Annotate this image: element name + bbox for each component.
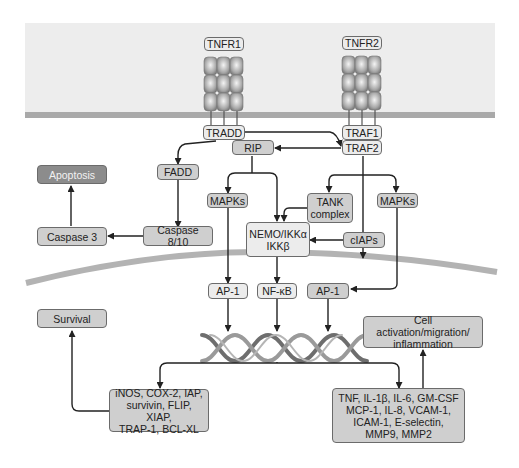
node-tradd: TRADD [203,125,245,140]
node-tank-complex: TANK complex [307,193,353,223]
node-inflammation-genes: TNF, IL-1β, IL-6, GM-CSF MCP-1, IL-8, VC… [332,388,465,443]
node-rip: RIP [232,140,274,155]
node-ap1-left: AP-1 [208,283,248,299]
node-survival-genes: iNOS, COX-2, IAP, survivin, FLIP, XIAP, … [109,389,209,432]
node-traf1: TRAF1 [342,125,382,140]
node-mapks-right: MAPKs [377,193,418,208]
node-tnfr2: TNFR2 [342,36,382,50]
plasma-membrane [25,112,495,118]
node-nemo-ikk: NEMO/IKKα IKKβ [246,222,310,257]
node-mapks-left: MAPKs [207,193,248,208]
node-survival: Survival [37,309,107,328]
dna-helix-icon [202,335,367,361]
node-tnfr1: TNFR1 [204,37,244,51]
node-caspase-8-10: Caspase 8/10 [143,226,213,246]
extracellular-region [25,23,495,115]
node-cell-activation: Cell activation/migration/ inflammation [363,316,483,348]
node-caspase-3: Caspase 3 [37,227,107,246]
node-apoptosis: Apoptosis [37,165,107,184]
pathway-edges [71,132,423,411]
node-nfkb: NF-κB [257,283,297,299]
node-traf2: TRAF2 [342,140,382,155]
node-ap1-right: AP-1 [307,283,349,299]
node-fadd: FADD [157,164,199,180]
node-ciaps: cIAPs [343,232,385,248]
